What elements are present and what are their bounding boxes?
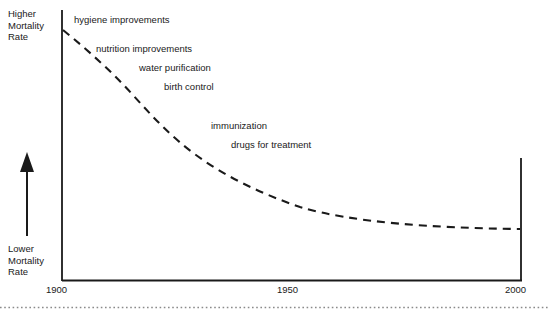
x-tick-label-1900: 1900 xyxy=(46,284,67,295)
annotation-immunization: immunization xyxy=(211,120,267,131)
mortality-rate-figure: Higher Mortality Rate Lower Mortality Ra… xyxy=(0,0,548,325)
annotation-water-purification: water purification xyxy=(139,62,211,73)
y-axis-high-label: Higher Mortality Rate xyxy=(8,8,44,43)
annotation-hygiene-improvements: hygiene improvements xyxy=(74,14,170,25)
x-tick-label-1950: 1950 xyxy=(277,284,298,295)
annotation-nutrition-improvements: nutrition improvements xyxy=(96,43,192,54)
x-tick-label-2000: 2000 xyxy=(505,284,526,295)
annotation-birth-control: birth control xyxy=(164,81,214,92)
y-axis-low-label: Lower Mortality Rate xyxy=(8,243,44,278)
mortality-rate-curve xyxy=(63,30,520,229)
mortality-direction-arrow-icon xyxy=(20,152,34,236)
chart-canvas xyxy=(0,0,548,325)
annotation-drugs-for-treatment: drugs for treatment xyxy=(231,139,311,150)
